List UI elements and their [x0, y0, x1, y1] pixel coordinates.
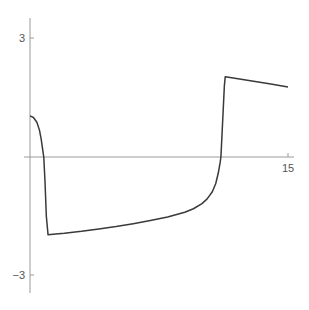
- y-tick-label-3: 3: [19, 32, 25, 44]
- y-tick-label-neg3: −3: [12, 269, 25, 281]
- x-tick-label-15: 15: [282, 162, 294, 174]
- chart-canvas: 3 −3 15: [0, 0, 309, 310]
- data-series-line: [30, 77, 288, 235]
